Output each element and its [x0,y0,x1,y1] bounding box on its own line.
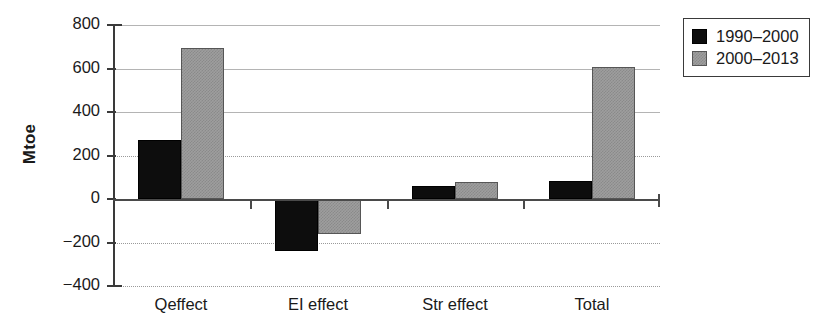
gridline--400 [113,286,660,287]
bar-str-effect-1990–2000[interactable] [412,186,455,199]
y-axis-title: Mtoe [20,104,40,184]
bar-str-effect-2000–2013[interactable] [455,182,498,199]
legend-swatch-1990-2000 [692,29,707,44]
bar-total-1990–2000[interactable] [549,181,592,199]
bar-ei-effect-2000–2013[interactable] [318,199,361,234]
bar-qeffect-1990–2000[interactable] [138,140,181,199]
legend-swatch-2000-2013 [692,51,707,66]
x-group-tick-2 [387,201,389,209]
legend-label-2000-2013: 2000–2013 [716,49,799,68]
y-axis-line [113,24,115,287]
x-group-tick-3 [523,201,525,209]
y-axis-bottom-cap [113,285,122,287]
x-tick-label-str-effect: Str effect [385,295,525,314]
x-tick-label-qeffect: Qeffect [111,295,251,314]
y-tick-label-600: 600 [42,58,100,77]
gridline--200 [113,243,660,244]
legend-item-1[interactable]: 2000–2013 [692,47,799,69]
x-axis-right-cap [658,194,660,207]
y-tick-label-400: 400 [42,101,100,120]
bar-chart-figure: Mtoe 8006004002000−200−400 QeffectEI eff… [0,0,831,336]
y-tick-label-200: 200 [42,145,100,164]
x-group-tick-1 [250,201,252,209]
y-axis-top-cap [113,24,122,26]
legend: 1990–2000 2000–2013 [683,18,810,77]
x-tick-label-total: Total [522,295,662,314]
gridline-800 [113,25,660,26]
bar-qeffect-2000–2013[interactable] [181,48,224,199]
bar-total-2000–2013[interactable] [592,67,635,199]
y-tick-label-0: 0 [42,188,100,207]
y-tick-label-800: 800 [42,14,100,33]
x-tick-label-ei-effect: EI effect [248,295,388,314]
y-tick-label--200: −200 [42,232,100,251]
bar-ei-effect-1990–2000[interactable] [275,199,318,251]
y-tick-label--400: −400 [42,275,100,294]
legend-label-1990-2000: 1990–2000 [716,27,799,46]
legend-item-0[interactable]: 1990–2000 [692,25,799,47]
